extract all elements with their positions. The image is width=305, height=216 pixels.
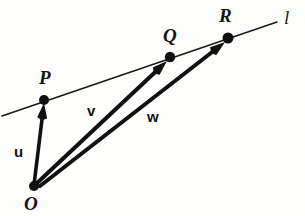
- vector-w-arrow: [40, 42, 225, 186]
- point-dot-q: [165, 52, 175, 62]
- point-dots-group: [29, 33, 234, 192]
- point-label-origin: O: [24, 194, 38, 213]
- point-label-p: P: [39, 68, 51, 87]
- point-label-r: R: [219, 6, 232, 25]
- point-dot-origin: [29, 181, 39, 191]
- vector-label-w: w: [147, 109, 159, 124]
- vector-diagram-figure: O P Q R u v w l: [0, 0, 305, 216]
- vector-arrows-group: [34, 42, 225, 186]
- vector-label-u: u: [14, 144, 23, 159]
- point-label-q: Q: [163, 26, 177, 45]
- line-label-l: l: [284, 8, 289, 27]
- point-dot-r: [223, 33, 234, 44]
- point-dot-p: [39, 95, 49, 105]
- vector-label-v: v: [87, 103, 95, 118]
